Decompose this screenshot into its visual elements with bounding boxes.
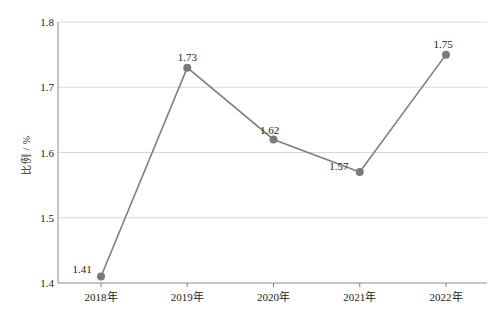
data-point-label: 1.62 — [243, 124, 297, 136]
data-point-label: 1.73 — [160, 51, 214, 63]
data-point-labels: 1.411.731.621.571.75 — [0, 0, 502, 310]
data-point-label: 1.41 — [55, 263, 109, 275]
data-point-label: 1.57 — [312, 160, 366, 172]
data-point-label: 1.75 — [416, 38, 470, 50]
line-chart: 比例 / % 1.41.51.61.71.8 2018年2019年2020年20… — [0, 0, 502, 310]
